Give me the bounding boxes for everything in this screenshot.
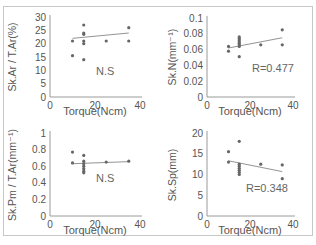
data-point xyxy=(238,45,241,48)
x-tick-label: 40 xyxy=(134,100,146,111)
stat-annotation: R=0.477 xyxy=(252,62,294,74)
y-tick-label: 0.4 xyxy=(32,177,46,188)
y-tick-label: 0.08 xyxy=(184,28,204,39)
trend-line xyxy=(229,161,283,172)
scatter-panel-top-left: 05101520253002040Torque(Ncm)Sk.Ar / T.Ar… xyxy=(6,12,146,118)
data-point xyxy=(82,33,85,36)
x-tick-label: 40 xyxy=(287,219,299,230)
data-point xyxy=(105,160,108,163)
data-point xyxy=(259,163,262,166)
y-tick-label: 5 xyxy=(197,190,203,201)
data-point xyxy=(281,163,284,166)
scatter-panel-bottom-left: 00.20.40.60.8102040Torque(Ncm)Sk.Pm / T.… xyxy=(6,128,146,237)
data-point xyxy=(227,160,230,163)
y-tick-label: 10 xyxy=(35,65,47,76)
y-tick-label: 0 xyxy=(40,92,46,103)
data-point xyxy=(105,39,108,42)
y-tick-label: 0.1 xyxy=(189,13,203,24)
y-tick-label: 25 xyxy=(35,25,47,36)
trend-line xyxy=(229,38,283,48)
y-tick-label: 0.02 xyxy=(184,76,204,87)
scatter-panel-top-right: 00.020.040.060.080.102040Torque(Ncm)Sk.N… xyxy=(166,13,299,118)
x-axis-label: Torque(Ncm) xyxy=(63,224,127,236)
y-tick-label: 15 xyxy=(35,52,47,63)
trend-line xyxy=(73,33,129,38)
data-point xyxy=(281,177,284,180)
data-point xyxy=(127,26,130,29)
data-point xyxy=(71,161,74,164)
stat-annotation: N.S xyxy=(96,172,114,184)
data-point xyxy=(82,42,85,45)
x-tick-label: 40 xyxy=(287,100,299,111)
y-tick-label: 20 xyxy=(192,128,204,139)
data-point xyxy=(281,43,284,46)
data-point xyxy=(227,50,230,53)
y-tick-label: 0 xyxy=(40,211,46,222)
data-point xyxy=(82,171,85,174)
y-tick-label: 5 xyxy=(40,78,46,89)
stat-annotation: R=0.348 xyxy=(246,182,288,194)
data-point xyxy=(238,173,241,176)
data-point xyxy=(238,140,241,143)
data-point xyxy=(71,150,74,153)
x-axis-label: Torque(Ncm) xyxy=(218,105,282,117)
data-point xyxy=(82,23,85,26)
y-tick-label: 0.04 xyxy=(184,60,204,71)
trend-line xyxy=(73,162,129,164)
data-point xyxy=(227,150,230,153)
y-tick-label: 30 xyxy=(35,12,47,23)
x-tick-label: 0 xyxy=(204,219,210,230)
y-tick-label: 0.06 xyxy=(184,44,204,55)
y-tick-label: 0 xyxy=(197,211,203,222)
y-axis-label: Sk.Sp(mm) xyxy=(166,149,178,202)
x-tick-label: 0 xyxy=(204,100,210,111)
y-tick-label: 0 xyxy=(197,92,203,103)
y-tick-label: 20 xyxy=(35,38,47,49)
data-point xyxy=(71,39,74,42)
x-axis-label: Torque(Ncm) xyxy=(63,105,127,117)
data-point xyxy=(127,160,130,163)
y-axis-label: Sk.N(mm⁻¹) xyxy=(166,29,178,86)
x-tick-label: 0 xyxy=(47,100,53,111)
y-axis-label: Sk.Pm / T.Ar(mm⁻¹) xyxy=(6,129,18,221)
data-point xyxy=(281,28,284,31)
x-axis-label: Torque(Ncm) xyxy=(218,224,282,236)
y-tick-label: 1 xyxy=(40,128,46,139)
scatter-panel-bottom-right: 0510152002040Torque(Ncm)Sk.Sp(mm)R=0.348 xyxy=(166,128,299,237)
y-tick-label: 15 xyxy=(192,148,204,159)
data-point xyxy=(227,45,230,48)
data-point xyxy=(238,55,241,58)
y-axis-label: Sk.Ar / T.Ar(%) xyxy=(6,22,18,91)
x-tick-label: 40 xyxy=(134,219,146,230)
y-tick-label: 0.8 xyxy=(32,144,46,155)
y-tick-label: 0.6 xyxy=(32,161,46,172)
data-point xyxy=(71,54,74,57)
y-tick-label: 10 xyxy=(192,169,204,180)
data-point xyxy=(82,58,85,61)
data-point xyxy=(259,43,262,46)
y-tick-label: 0.2 xyxy=(32,194,46,205)
scatter-plot-grid: 05101520253002040Torque(Ncm)Sk.Ar / T.Ar… xyxy=(0,0,316,245)
stat-annotation: N.S xyxy=(96,65,114,77)
x-tick-label: 0 xyxy=(47,219,53,230)
data-point xyxy=(82,154,85,157)
data-point xyxy=(127,39,130,42)
